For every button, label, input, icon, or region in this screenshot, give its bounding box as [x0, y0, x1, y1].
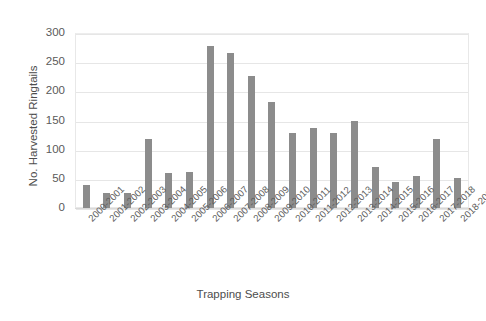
x-axis-tick-labels: 2000-20012001-20022002-20032003-20042004…	[76, 208, 468, 278]
bar-slot	[76, 33, 97, 208]
x-axis-tick-label-text: 2015-2016	[396, 216, 404, 224]
x-axis-tick-label-text: 2002-2003	[128, 216, 136, 224]
x-axis-tick-label-text: 2012-2013	[334, 216, 342, 224]
bar-slot	[427, 33, 448, 208]
bar-slot	[138, 33, 159, 208]
bar-slot	[365, 33, 386, 208]
x-axis-tick-label-text: 2001-2002	[107, 216, 115, 224]
bar[interactable]	[248, 76, 255, 208]
bar-slot	[220, 33, 241, 208]
x-axis-tick-label-text: 2018-2019	[458, 216, 466, 224]
bar-slot	[179, 33, 200, 208]
bar-slot	[241, 33, 262, 208]
x-axis-tick-label-text: 2009-2010	[272, 216, 280, 224]
bar[interactable]	[83, 185, 90, 208]
bar-chart-figure: 050100150200250300 No. Harvested Ringtai…	[0, 0, 486, 321]
bar-slot	[200, 33, 221, 208]
bar-slot	[385, 33, 406, 208]
bar-slot	[344, 33, 365, 208]
bar-series	[76, 33, 468, 208]
bar[interactable]	[207, 46, 214, 208]
bar-slot	[303, 33, 324, 208]
x-axis-tick-label-text: 2014-2015	[375, 216, 383, 224]
x-axis-tick-label-text: 2017-2018	[437, 216, 445, 224]
x-axis-tick-label-text: 2007-2008	[231, 216, 239, 224]
bar-slot	[159, 33, 180, 208]
x-axis-tick-label-text: 2016-2017	[416, 216, 424, 224]
y-axis-title: No. Harvested Ringtails	[27, 46, 39, 206]
x-axis-tick-label-text: 2005-2006	[189, 216, 197, 224]
bar[interactable]	[227, 53, 234, 208]
bar-slot	[262, 33, 283, 208]
bar-slot	[406, 33, 427, 208]
bar-slot	[324, 33, 345, 208]
x-axis-tick-label-text: 2008-2009	[251, 216, 259, 224]
x-axis-tick-label-text: 2013-2014	[355, 216, 363, 224]
x-axis-tick-label-text: 2000-2001	[86, 216, 94, 224]
bar-slot	[447, 33, 468, 208]
x-axis-tick-label-text: 2006-2007	[210, 216, 218, 224]
y-axis-tick-label: 300	[25, 27, 65, 39]
bar-slot	[117, 33, 138, 208]
x-axis-tick-label-text: 2004-2005	[169, 216, 177, 224]
x-axis-tick-label-text: 2011-2012	[313, 216, 321, 224]
bar-slot	[282, 33, 303, 208]
x-axis-title: Trapping Seasons	[0, 288, 486, 300]
bar-slot	[97, 33, 118, 208]
x-axis-tick-label-text: 2010-2011	[293, 216, 301, 224]
x-axis-tick-label-text: 2003-2004	[148, 216, 156, 224]
